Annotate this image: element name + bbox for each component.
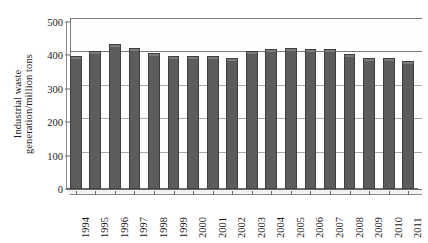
y-axis-tick-label: 500 [47,17,63,28]
x-axis-tick-label: 2005 [295,217,306,238]
bar-body [324,50,336,189]
x-axis-tick-mark [193,191,194,195]
x-axis-tick-label: 2000 [197,217,208,238]
x-axis-tick-label: 1998 [158,217,169,238]
bar [265,50,277,189]
bar-top-face [402,61,414,64]
y-axis-title-line-1: Industrial waste [12,70,23,138]
x-axis-tick-mark [350,191,351,195]
bar-top-face [207,56,219,59]
x-axis-tick-label: 1997 [138,217,149,238]
bar-body [148,54,160,189]
bar [168,57,180,189]
bar-top-face [109,44,121,47]
bar-body [383,59,395,189]
x-axis-tick-mark [408,191,409,195]
bar [129,49,141,189]
bar-top-face [363,58,375,61]
bar [305,50,317,189]
bar-body [246,52,258,189]
y-axis-tick-labels: 0100200300400500 [38,0,66,243]
x-axis-tick-label: 2011 [412,217,423,238]
x-axis-tick-mark [213,191,214,195]
x-axis-tick-mark [271,191,272,195]
y-axis-tick-label: 300 [47,83,63,94]
bar [363,59,375,189]
bar-top-face [344,54,356,57]
x-axis-tick-mark [115,191,116,195]
bar-body [344,55,356,189]
y-axis-tick-label: 0 [58,184,63,195]
x-axis-tick-mark [134,191,135,195]
x-axis-tick-mark [232,191,233,195]
x-axis-tick-mark [389,191,390,195]
y-axis-title-line-2: generation/million tons [23,54,34,154]
bar-top-face [383,58,395,61]
x-axis-tick-label: 1999 [178,217,189,238]
bar [402,62,414,189]
x-axis-tick-mark [95,191,96,195]
x-axis-tick-label: 2010 [393,217,404,238]
bar [324,50,336,189]
bar-body [187,57,199,189]
bar [70,57,82,189]
y-axis-tick-label: 400 [47,50,63,61]
bar [383,59,395,189]
x-axis-tick-label: 2004 [275,217,286,238]
bar-body [305,50,317,189]
bar-body [265,50,277,189]
x-axis-tick-label: 1995 [99,217,110,238]
bar [344,55,356,189]
x-axis-tick-label: 2009 [373,217,384,238]
bar-top-face [246,51,258,54]
bar-body [402,62,414,189]
bar-body [89,52,101,189]
x-axis-tick-label: 2006 [314,217,325,238]
bar [109,45,121,189]
bar-top-face [305,49,317,52]
bar-body [168,57,180,189]
x-axis-tick-mark [252,191,253,195]
y-axis-tick-label: 100 [47,150,63,161]
bar-top-face [89,51,101,54]
x-axis-tick-label: 2002 [236,217,247,238]
bar-top-face [187,56,199,59]
bar [246,52,258,189]
x-axis-tick-label: 2003 [256,217,267,238]
bar-top-face [148,53,160,56]
x-axis-tick-mark [369,191,370,195]
bar-top-face [129,48,141,51]
y-axis-tick-label: 200 [47,117,63,128]
x-axis-tick-mark [330,191,331,195]
x-axis-tick-label: 2001 [217,217,228,238]
x-axis-tick-mark [76,191,77,195]
bar-top-face [226,58,238,61]
bar-body [363,59,375,189]
x-axis-tick-label: 2008 [354,217,365,238]
x-axis-tick-mark [174,191,175,195]
x-axis-tick-mark [291,191,292,195]
bar [187,57,199,189]
bar-top-face [324,49,336,52]
bar-body [129,49,141,189]
bar-chart: generation/million tons Industrial waste… [0,0,428,243]
bar-body [285,49,297,189]
bar [285,49,297,189]
bar-body [207,57,219,189]
x-axis-tick-labels: 1994199519961997199819992000200120022003… [66,196,418,243]
bar-top-face [265,49,277,52]
bar-top-face [70,56,82,59]
bar-body [226,59,238,189]
x-axis-tick-label: 2007 [334,217,345,238]
bar [207,57,219,189]
bar-top-face [285,48,297,51]
x-axis-tick-mark [154,191,155,195]
bar [226,59,238,189]
x-axis-tick-label: 1996 [119,217,130,238]
bar [89,52,101,189]
y-axis-title: generation/million tons Industrial waste [8,18,38,190]
bar-top-face [168,56,180,59]
x-axis-tick-label: 1994 [80,217,91,238]
x-axis-tick-mark [310,191,311,195]
bar [148,54,160,189]
